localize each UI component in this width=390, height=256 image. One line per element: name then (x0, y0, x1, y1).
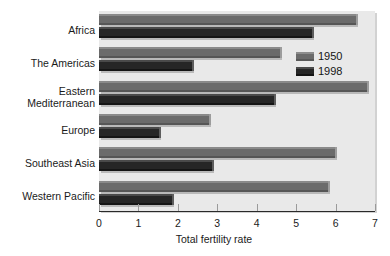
category-label-the-americas: The Americas (0, 57, 95, 69)
x-tick-mark-4 (257, 204, 258, 211)
x-tick-label-1: 1 (136, 217, 142, 229)
bar-1998-southeast-asia (99, 160, 212, 171)
category-label-africa: Africa (0, 24, 95, 36)
bar-1998-africa (99, 27, 312, 38)
x-tick-mark-2 (178, 204, 179, 211)
legend-swatch-1998-icon (296, 67, 314, 76)
x-tick-label-6: 6 (333, 217, 339, 229)
bar-1950-the-americas (99, 47, 280, 58)
bar-1950-africa (99, 14, 356, 25)
bar-1998-the-americas (99, 60, 192, 71)
bar-1998-europe (99, 127, 159, 138)
x-tick-label-2: 2 (175, 217, 181, 229)
bar-1950-europe (99, 114, 209, 125)
fertility-rate-bar-chart: Africa The Americas Eastern Mediterranea… (0, 0, 390, 256)
x-tick-mark-1 (138, 204, 139, 211)
x-tick-mark-5 (296, 204, 297, 211)
category-label-eastern-mediterranean: Eastern Mediterranean (0, 85, 95, 109)
bar-1998-western-pacific (99, 194, 172, 205)
legend-item-1950: 1950 (296, 50, 342, 63)
bar-1950-southeast-asia (99, 147, 335, 158)
category-label-southeast-asia: Southeast Asia (0, 157, 95, 169)
legend-label-1950: 1950 (318, 51, 342, 62)
x-tick-mark-7 (375, 204, 376, 211)
x-axis-title: Total fertility rate (176, 233, 252, 245)
bar-1998-eastern-mediterranean (99, 94, 274, 105)
x-tick-mark-6 (336, 204, 337, 211)
x-tick-label-0: 0 (96, 217, 102, 229)
x-tick-mark-3 (217, 204, 218, 211)
x-tick-label-3: 3 (214, 217, 220, 229)
x-tick-label-7: 7 (372, 217, 378, 229)
bar-1950-western-pacific (99, 181, 328, 192)
bar-1950-eastern-mediterranean (99, 81, 367, 92)
category-label-europe: Europe (0, 124, 95, 136)
category-label-western-pacific: Western Pacific (0, 190, 95, 202)
legend-label-1998: 1998 (318, 66, 342, 77)
legend-item-1998: 1998 (296, 65, 342, 78)
x-tick-label-5: 5 (293, 217, 299, 229)
x-axis-line (99, 211, 375, 212)
x-axis-title-wrap: Total fertility rate (0, 233, 390, 245)
x-tick-mark-0 (99, 204, 100, 211)
legend-swatch-1950-icon (296, 52, 314, 61)
x-tick-label-4: 4 (254, 217, 260, 229)
chart-legend: 1950 1998 (296, 50, 342, 80)
